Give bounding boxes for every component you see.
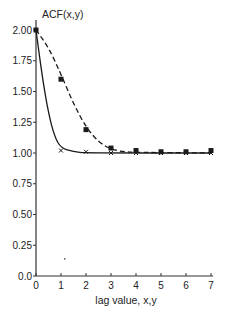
y-tick-label: 2.00	[13, 25, 33, 36]
x-tick-label: 2	[83, 280, 89, 291]
square-marker	[209, 148, 214, 153]
square-marker	[59, 77, 64, 82]
solid-fit-curve	[36, 30, 211, 153]
y-tick-label: 1.00	[13, 148, 33, 159]
x-tick-label: 1	[58, 280, 64, 291]
x-tick-label: 5	[158, 280, 164, 291]
y-tick-label: 0.50	[13, 209, 33, 220]
data-markers	[34, 28, 214, 260]
cross-marker	[59, 149, 63, 153]
y-axis-ticks: 0.00.250.500.751.001.251.501.752.00	[13, 25, 36, 282]
square-marker	[134, 148, 139, 153]
square-marker	[109, 146, 114, 151]
stray-dot	[64, 258, 66, 260]
square-marker	[84, 127, 89, 132]
x-axis-title: lag value, x,y	[95, 294, 157, 306]
y-tick-label: 0.0	[18, 271, 32, 282]
x-tick-label: 4	[133, 280, 139, 291]
fit-curves	[36, 30, 211, 153]
y-tick-label: 0.25	[13, 240, 33, 251]
x-tick-label: 3	[108, 280, 114, 291]
y-tick-label: 0.75	[13, 178, 33, 189]
y-tick-label: 1.50	[13, 86, 33, 97]
x-tick-label: 0	[33, 280, 39, 291]
acf-chart: 0.00.250.500.751.001.251.501.752.00 0123…	[0, 0, 225, 320]
y-tick-label: 1.75	[13, 55, 33, 66]
x-tick-label: 7	[208, 280, 214, 291]
x-tick-label: 6	[183, 280, 189, 291]
y-axis-title: ACF(x,y)	[42, 8, 83, 20]
dashed-fit-curve	[36, 30, 211, 153]
y-tick-label: 1.25	[13, 117, 33, 128]
